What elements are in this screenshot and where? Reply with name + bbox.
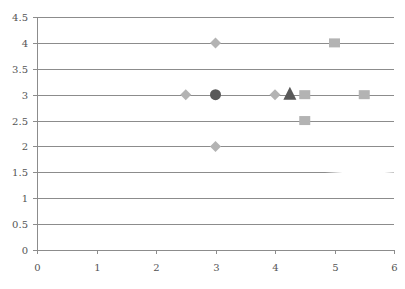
diamond-marker xyxy=(210,37,221,48)
square-marker xyxy=(299,116,310,125)
y-tick-label: 1 xyxy=(22,193,28,204)
x-tick-label: 5 xyxy=(332,262,338,273)
y-tick-label: 4.5 xyxy=(12,12,28,23)
x-tick-label: 1 xyxy=(94,262,100,273)
data-markers xyxy=(180,37,370,152)
x-tick-label: 6 xyxy=(391,262,397,273)
x-tick-label: 0 xyxy=(34,262,40,273)
diamond-marker xyxy=(270,89,281,100)
square-marker xyxy=(299,90,310,99)
triangle-marker xyxy=(283,87,296,100)
x-tick-label: 4 xyxy=(272,262,278,273)
y-tick-label: 1.5 xyxy=(12,167,28,178)
x-tick-label: 3 xyxy=(213,262,219,273)
gridlines xyxy=(37,18,394,251)
y-axis-tick-labels: 00.511.522.533.544.5 xyxy=(12,12,28,256)
circle-marker xyxy=(210,89,221,100)
square-marker xyxy=(359,90,370,99)
x-tick-label: 2 xyxy=(153,262,159,273)
scatter-chart: 00.511.522.533.544.5 0123456 xyxy=(0,0,405,289)
y-tick-label: 3.5 xyxy=(12,64,28,75)
diamond-marker xyxy=(210,141,221,152)
square-marker xyxy=(329,38,340,47)
y-tick-label: 2.5 xyxy=(12,116,28,127)
axes xyxy=(33,17,395,254)
y-tick-label: 0 xyxy=(22,245,28,256)
y-tick-label: 4 xyxy=(22,38,28,49)
y-tick-label: 0.5 xyxy=(12,219,28,230)
gridline-fade-artifact xyxy=(325,168,395,174)
y-tick-label: 3 xyxy=(22,90,28,101)
diamond-marker xyxy=(180,89,191,100)
x-axis-tick-labels: 0123456 xyxy=(34,262,397,273)
y-tick-label: 2 xyxy=(22,141,28,152)
